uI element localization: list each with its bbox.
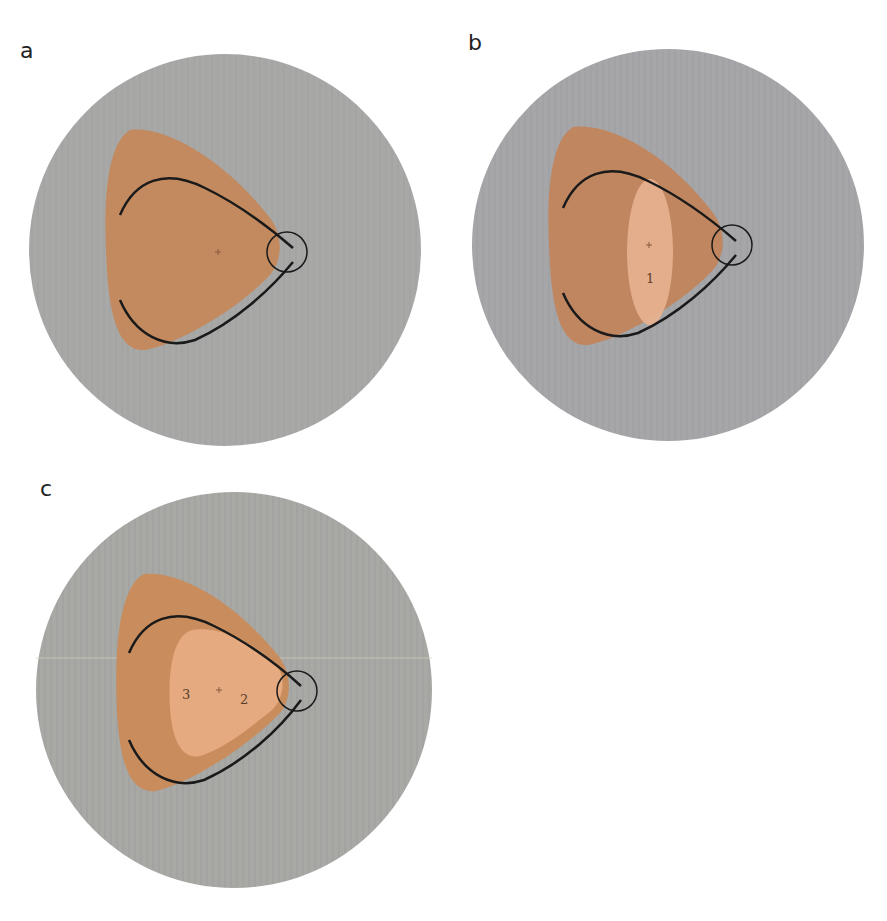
scotoma-subregion-1 (627, 179, 673, 325)
panel-a-diagram (25, 50, 425, 450)
region-label-1: 1 (646, 271, 654, 286)
region-label-2: 2 (240, 692, 248, 707)
panel-b-diagram: 1 (470, 45, 870, 445)
panel-c-diagram: 3 2 (32, 488, 436, 892)
region-label-3: 3 (182, 687, 190, 702)
